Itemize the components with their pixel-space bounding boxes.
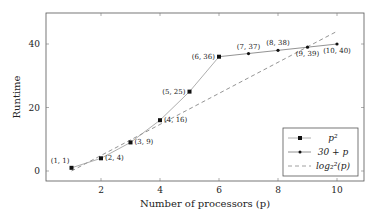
point-label: (6, 36) bbox=[192, 53, 216, 61]
series-30p-marker bbox=[306, 46, 309, 49]
point-label: (4, 16) bbox=[164, 116, 188, 124]
y-axis-label: Runtime bbox=[11, 75, 22, 118]
y-tick-label: 0 bbox=[34, 166, 40, 176]
series-30p-marker bbox=[247, 52, 250, 55]
y-tick-label: 40 bbox=[29, 39, 41, 49]
x-tick-label: 4 bbox=[157, 185, 163, 195]
legend: p²30 + plog₂²(p) bbox=[283, 128, 358, 176]
x-tick-label: 2 bbox=[98, 185, 104, 195]
point-label: (3, 9) bbox=[135, 138, 154, 146]
legend-label: p² bbox=[328, 133, 338, 143]
series-p2-marker bbox=[129, 140, 133, 144]
point-label: (8, 38) bbox=[266, 39, 290, 47]
point-label: (7, 37) bbox=[237, 43, 261, 51]
x-tick-label: 8 bbox=[275, 185, 281, 195]
line-chart: (1, 1)(2, 4)(3, 9)(4, 16)(5, 25)(6, 36)(… bbox=[0, 0, 382, 221]
series-30p-marker bbox=[276, 49, 279, 52]
point-label: (2, 4) bbox=[105, 154, 124, 162]
series-30p-marker bbox=[335, 42, 338, 45]
series-p2-marker bbox=[217, 55, 221, 59]
series-p2-marker bbox=[99, 156, 103, 160]
point-label: (1, 1) bbox=[51, 157, 70, 165]
point-label: (5, 25) bbox=[162, 88, 186, 96]
legend-marker-dot bbox=[299, 151, 302, 154]
x-tick-label: 10 bbox=[331, 185, 343, 195]
point-label: (10, 40) bbox=[323, 47, 351, 55]
series-p2-marker bbox=[188, 90, 192, 94]
legend-marker-square bbox=[298, 136, 302, 140]
x-tick-label: 6 bbox=[216, 185, 222, 195]
y-tick-label: 20 bbox=[29, 103, 41, 113]
legend-label: 30 + p bbox=[318, 147, 349, 157]
x-axis-label: Number of processors (p) bbox=[140, 198, 270, 209]
series-p2-line bbox=[72, 57, 220, 168]
legend-label: log₂²(p) bbox=[316, 161, 351, 171]
series-p2-marker bbox=[70, 166, 74, 170]
series-p2-marker bbox=[158, 118, 162, 122]
point-label: (9, 39) bbox=[296, 50, 320, 58]
